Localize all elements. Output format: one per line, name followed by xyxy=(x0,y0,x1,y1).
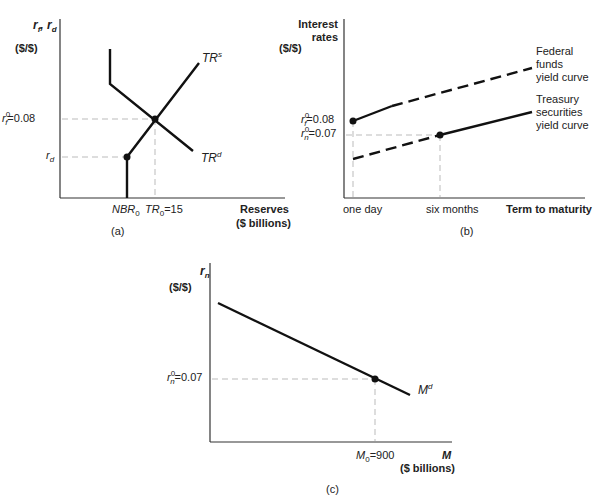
chart-c xyxy=(210,263,452,442)
chart-a-trs-label: TRs xyxy=(202,52,222,64)
chart-c-x-label: M xyxy=(442,450,451,461)
chart-b-tick-rn: r0n=0.07 xyxy=(301,128,336,139)
chart-a-x-label: Reserves xyxy=(240,204,289,215)
chart-a-trd-curve xyxy=(110,49,193,151)
chart-b-fedfunds-label-2: funds xyxy=(536,59,563,70)
chart-a-tick-rd: rd xyxy=(46,150,54,161)
chart-b-caption: (b) xyxy=(460,226,473,237)
chart-a-discount-point xyxy=(124,154,131,161)
chart-c-equilibrium-point xyxy=(372,376,379,383)
figure-canvas xyxy=(0,0,607,504)
chart-b-treasury-point xyxy=(437,132,444,139)
chart-a-tick-nbr0: NBR0 xyxy=(112,204,140,215)
chart-c-md-label: Md xyxy=(418,384,432,396)
chart-a-y-label: rf, rd xyxy=(33,19,57,31)
chart-b-treasury-label-2: securities xyxy=(536,107,582,118)
chart-a-trd-label: TRd xyxy=(201,152,221,164)
chart-b-fedfunds-dashed xyxy=(392,68,532,106)
chart-b-y-label-line1: Interest xyxy=(296,19,338,30)
chart-a-y-unit: ($/$) xyxy=(15,43,38,54)
chart-b-tick-one-day: one day xyxy=(343,204,382,215)
chart-b-tick-six-months: six months xyxy=(426,204,479,215)
chart-b-y-label-line2: rates xyxy=(296,32,338,43)
chart-c-x-unit: ($ billions) xyxy=(400,463,455,474)
chart-c-tick-rn: r0n=0.07 xyxy=(167,372,202,383)
chart-b-fedfunds-point xyxy=(350,118,357,125)
chart-b-treasury-solid xyxy=(440,112,532,135)
chart-b-fedfunds-label-1: Federal xyxy=(536,46,573,57)
chart-a-x-unit: ($ billions) xyxy=(236,218,291,229)
chart-b-x-label: Term to maturity xyxy=(506,204,592,215)
chart-c-caption: (c) xyxy=(326,484,339,495)
chart-b-treasury-label-3: yield curve xyxy=(536,120,589,131)
chart-c-y-unit: ($/$) xyxy=(169,282,192,293)
chart-a-tick-tr0: TR0=15 xyxy=(145,204,183,215)
chart-a-trs-curve xyxy=(127,63,199,198)
chart-b-y-unit: ($/$) xyxy=(279,43,302,54)
chart-a-equilibrium-point xyxy=(152,116,159,123)
chart-a-caption: (a) xyxy=(111,226,124,237)
chart-a xyxy=(60,19,285,198)
chart-b-fedfunds-solid xyxy=(353,106,392,121)
chart-a-tick-rf: r0f=0.08 xyxy=(2,113,55,124)
chart-b-fedfunds-label-3: yield curve xyxy=(536,72,589,83)
chart-c-y-label: rn xyxy=(200,265,210,277)
chart-b-tick-rf: r0f=0.08 xyxy=(301,114,334,125)
chart-b-treasury-dashed xyxy=(353,135,440,159)
chart-c-md-curve xyxy=(218,303,410,395)
chart-b-treasury-label-1: Treasury xyxy=(536,94,579,105)
chart-c-tick-m0: M0=900 xyxy=(356,450,394,461)
